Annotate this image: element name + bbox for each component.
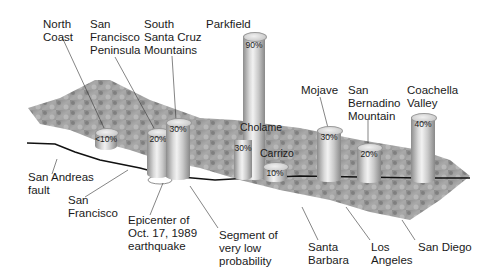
label-epicenter: Epicenter of Oct. 17, 1989 earthquake [128, 214, 197, 253]
label-cholame: Cholame [240, 121, 282, 134]
label-carrizo: Carrizo [260, 147, 294, 160]
label-sf-peninsula: San Francisco Peninsula [90, 18, 141, 57]
label-santa-barbara: Santa Barbara [308, 241, 349, 267]
label-mojave: Mojave [301, 84, 338, 97]
probability-santa-cruz: 30% [166, 124, 190, 134]
probability-san-bernadino: 20% [357, 149, 381, 159]
label-low-probability-segment: Segment of very low probability [219, 229, 278, 268]
label-north-coast: North Coast [43, 18, 73, 44]
label-los-angeles: Los Angeles [371, 241, 413, 267]
probability-parkfield: 90% [243, 40, 265, 50]
label-santa-cruz: South Santa Cruz Mountains [144, 18, 202, 57]
probability-coachella: 40% [411, 119, 435, 129]
probability-cholame: 30% [234, 143, 252, 153]
label-san-diego: San Diego [418, 241, 472, 254]
fault-probability-diagram: <10% 20% 30% 90% 30% 10% 30% 20% 40% Nor… [0, 0, 491, 279]
probability-north-coast: <10% [95, 134, 117, 144]
label-coachella: Coachella Valley [407, 84, 458, 110]
label-san-bernadino: San Bernadino Mountain [348, 84, 400, 123]
label-san-francisco: San Francisco [68, 194, 118, 220]
probability-carrizo: 10% [263, 168, 287, 178]
probability-mojave: 30% [317, 132, 341, 142]
label-parkfield: Parkfield [206, 18, 251, 31]
